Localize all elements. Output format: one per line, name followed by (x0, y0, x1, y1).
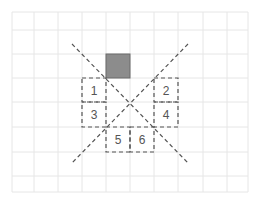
box-number-label: 5 (115, 133, 122, 147)
box-number-label: 2 (163, 84, 170, 98)
dashed-box-3: 3 (82, 102, 106, 127)
box-number-label: 3 (91, 108, 98, 122)
box-number-label: 4 (163, 108, 170, 122)
filled-gray-square (106, 54, 130, 78)
dashed-box-4: 4 (154, 102, 178, 127)
dashed-box-1: 1 (82, 78, 106, 102)
box-number-label: 1 (91, 84, 98, 98)
dashed-box-2: 2 (154, 78, 178, 102)
box-number-label: 6 (139, 133, 146, 147)
gray-square (106, 54, 130, 78)
dashed-box-6: 6 (130, 127, 154, 152)
background-grid (12, 12, 248, 192)
dashed-box-5: 5 (106, 127, 130, 152)
grid-diagram: 123456 (0, 0, 260, 199)
